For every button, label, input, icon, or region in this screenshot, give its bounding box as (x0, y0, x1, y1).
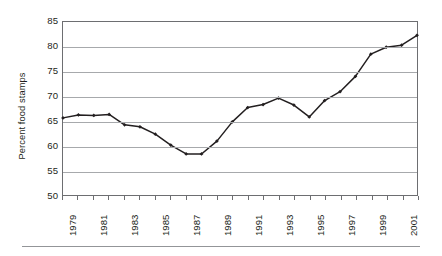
x-axis-tick (186, 196, 187, 200)
x-axis-tick (124, 196, 125, 200)
chart-figure: Percent food stamps 8580757065605550 197… (0, 0, 442, 256)
gridline (63, 72, 417, 73)
y-axis-tick-label: 60 (36, 141, 58, 151)
x-axis-tick (108, 196, 109, 200)
gridline (63, 147, 417, 148)
gridline (63, 122, 417, 123)
y-axis-tick-label: 85 (36, 16, 58, 26)
x-axis-tick-label: 1983 (129, 202, 140, 236)
x-axis-tick-label: 1981 (98, 202, 109, 236)
x-axis-tick (93, 196, 94, 200)
y-axis-tick-label: 50 (36, 191, 58, 201)
y-axis-tick-label: 65 (36, 116, 58, 126)
x-axis-tick-label: 1999 (377, 202, 388, 236)
x-axis-tick (372, 196, 373, 200)
x-axis-tick-label: 1989 (222, 202, 233, 236)
gridline (63, 172, 417, 173)
footer-divider (22, 246, 420, 247)
y-axis-tick-label: 80 (36, 41, 58, 51)
x-axis-tick (418, 196, 419, 200)
x-axis-tick (170, 196, 171, 200)
y-axis-title: Percent food stamps (11, 18, 33, 214)
x-axis-tick (325, 196, 326, 200)
data-point-marker (92, 114, 96, 118)
x-axis-tick (403, 196, 404, 200)
x-axis-tick-label: 1991 (253, 202, 264, 236)
y-axis-tick-label: 70 (36, 91, 58, 101)
x-axis-tick (294, 196, 295, 200)
x-axis-tick (62, 196, 63, 200)
x-axis-tick-label: 1987 (191, 202, 202, 236)
x-axis-tick-labels: 1979198119831985198719891991199319951997… (62, 202, 418, 242)
x-axis-tick-label: 1993 (284, 202, 295, 236)
x-axis-tick (341, 196, 342, 200)
x-axis-tick (77, 196, 78, 200)
y-axis-tick-labels: 8580757065605550 (36, 0, 58, 256)
x-axis-tick (248, 196, 249, 200)
data-point-marker (61, 116, 65, 120)
x-axis-tick (263, 196, 264, 200)
x-axis-tick (310, 196, 311, 200)
y-axis-tick-label: 55 (36, 166, 58, 176)
x-axis-tick (387, 196, 388, 200)
gridline (63, 97, 417, 98)
x-axis-tick (279, 196, 280, 200)
x-axis-tick (217, 196, 218, 200)
x-axis-tick-label: 1997 (346, 202, 357, 236)
x-axis-tick (201, 196, 202, 200)
x-axis-tick (356, 196, 357, 200)
x-axis-tick-label: 1995 (315, 202, 326, 236)
data-point-marker (77, 113, 81, 117)
x-axis-tick-label: 1979 (67, 202, 78, 236)
gridline (63, 47, 417, 48)
series-polyline (63, 35, 417, 154)
x-axis-tick-label: 1985 (160, 202, 171, 236)
x-axis-tick-label: 2001 (408, 202, 419, 236)
x-axis-tick (232, 196, 233, 200)
plot-area (62, 21, 418, 196)
x-axis-tick (139, 196, 140, 200)
x-axis-tick (155, 196, 156, 200)
y-axis-tick-label: 75 (36, 66, 58, 76)
